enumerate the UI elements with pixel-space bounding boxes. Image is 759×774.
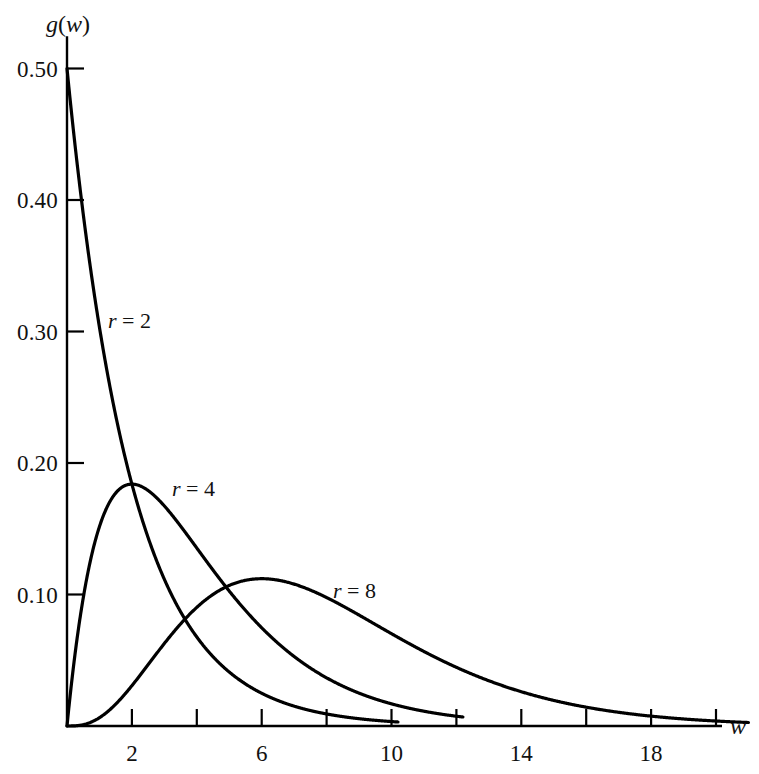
- curve-r-8: [67, 579, 748, 726]
- y-tick-label-0.30: 0.30: [0, 321, 58, 344]
- curve-r-2: [67, 69, 398, 722]
- x-tick-label-14: 14: [491, 742, 551, 765]
- r-2-label-equals: =: [117, 308, 140, 333]
- r-2-label: r = 2: [108, 310, 151, 332]
- y-tick-label-0.20: 0.20: [0, 452, 58, 475]
- r-8-label-equals: =: [342, 578, 365, 603]
- r-4-label-equals: =: [181, 476, 204, 501]
- r-4-label: r = 4: [172, 478, 215, 500]
- r-2-label-symbol: r: [108, 308, 117, 333]
- y-axis-title-w: w: [66, 11, 82, 37]
- r-8-label-value: 8: [365, 578, 376, 603]
- chi-square-density-figure: g(w) w 0.500.400.300.200.10 26101418 r =…: [0, 0, 759, 774]
- y-tick-label-0.10: 0.10: [0, 584, 58, 607]
- y-axis-title: g(w): [46, 12, 90, 36]
- x-tick-label-2: 2: [102, 742, 162, 765]
- y-tick-label-0.40: 0.40: [0, 189, 58, 212]
- tick-marks-group: [67, 69, 716, 727]
- y-tick-label-0.50: 0.50: [0, 58, 58, 81]
- r-8-label: r = 8: [333, 580, 376, 602]
- x-tick-label-6: 6: [232, 742, 292, 765]
- x-tick-label-18: 18: [621, 742, 681, 765]
- r-2-label-value: 2: [140, 308, 151, 333]
- y-axis-title-g: g: [46, 11, 58, 37]
- y-axis-title-open-paren: (: [58, 11, 66, 37]
- r-8-label-symbol: r: [333, 578, 342, 603]
- r-4-label-value: 4: [204, 476, 215, 501]
- axis-group: [67, 36, 722, 726]
- density-curves-group: [67, 69, 748, 727]
- y-axis-title-close-paren: ): [82, 11, 90, 37]
- plot-canvas: [0, 0, 759, 774]
- x-axis-title: w: [730, 714, 746, 738]
- curve-r-4: [67, 484, 463, 726]
- r-4-label-symbol: r: [172, 476, 181, 501]
- x-tick-label-10: 10: [362, 742, 422, 765]
